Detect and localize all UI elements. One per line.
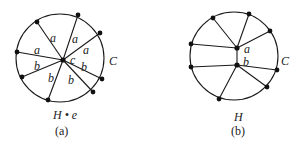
node-a	[234, 45, 239, 50]
svg-text:a: a	[34, 43, 40, 57]
svg-text:c: c	[70, 53, 76, 67]
svg-text:b: b	[68, 73, 74, 87]
spokes-a	[17, 15, 102, 100]
svg-text:b: b	[34, 59, 40, 73]
svg-text:C: C	[109, 54, 118, 68]
svg-text:b: b	[48, 71, 54, 85]
graph-label-a: H • e	[52, 108, 78, 122]
caption-b: (b)	[231, 124, 245, 138]
figure: a a a a b b b b c C H • e (a)	[0, 0, 303, 144]
label-cycle-c-b: C	[281, 54, 290, 68]
graph-label-b: H	[233, 110, 244, 124]
svg-text:a: a	[50, 31, 56, 45]
label-node-b: b	[243, 55, 249, 69]
label-node-a: a	[244, 42, 250, 56]
svg-text:a: a	[83, 43, 89, 57]
panel-a: a a a a b b b b c C H • e (a)	[15, 13, 118, 138]
edge-labels-a: a a a a b b b b c C	[34, 31, 118, 87]
svg-text:a: a	[72, 32, 78, 46]
hub-node-c	[60, 57, 65, 62]
caption-a: (a)	[55, 124, 68, 138]
node-b	[234, 62, 239, 67]
svg-text:b: b	[81, 60, 87, 74]
panel-b: a b C H (b)	[189, 12, 290, 138]
cycle-c-a	[16, 14, 104, 102]
edges-b	[191, 14, 277, 99]
